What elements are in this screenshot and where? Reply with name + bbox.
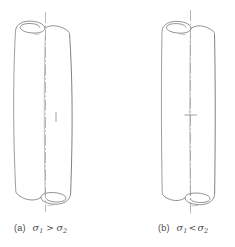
bottom-rim-sweep-a [16,192,41,200]
top-spiral-roll-a [16,21,45,33]
sigma-subscript-a1: 1 [39,227,43,235]
bottom-rim-sweep-b [162,193,185,201]
top-rim-sweep-b [191,26,215,34]
sigma-subscript-b1: 1 [183,227,187,235]
caption-tag-a: (a) [14,223,26,233]
tube-seam-line-a [44,35,45,196]
tube-left-edge-a [14,31,16,192]
caption-panel-a: (a)σ1>σ2 [14,222,67,235]
tube-right-edge-a [70,34,73,195]
caption-row: (a)σ1>σ2 (b)σ1<σ2 [0,222,235,244]
cylinder-panel-b [161,10,215,214]
figure-root: (a)σ1>σ2 (b)σ1<σ2 [0,0,235,247]
top-rim-sweep-a [45,26,70,34]
bottom-spiral-roll-b [185,193,215,205]
caption-tag-b: (b) [158,223,170,233]
top-spiral-roll-b [162,21,191,33]
relation-operator-b: < [189,223,197,233]
figure-illustration [0,0,235,247]
tube-right-edge-b [215,34,216,195]
cylinder-panel-a [14,12,72,212]
caption-panel-b: (b)σ1<σ2 [158,222,208,235]
tube-left-edge-b [161,31,162,193]
sigma-subscript-b2: 2 [204,227,208,235]
sigma-subscript-a2: 2 [63,227,67,235]
relation-operator-a: > [46,223,54,233]
